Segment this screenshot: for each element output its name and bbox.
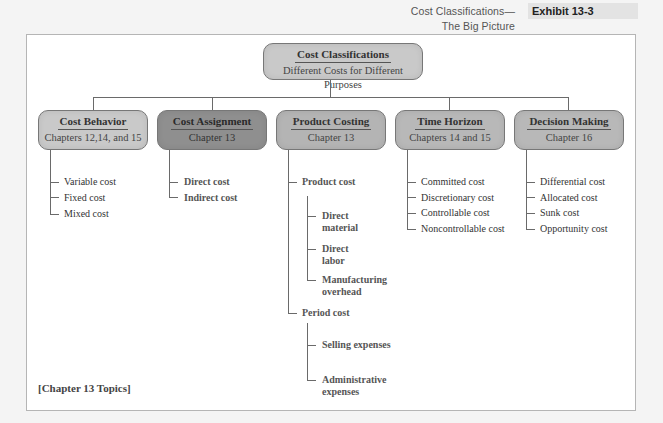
- list-item: Selling expenses: [322, 339, 391, 351]
- chapter-topics-note: [Chapter 13 Topics]: [38, 382, 131, 394]
- tick: [169, 197, 178, 198]
- branch-line: [169, 150, 170, 197]
- item-line: material: [322, 222, 358, 233]
- node-title: Time Horizon: [415, 115, 484, 130]
- root-subtitle: Different Costs for Different Purposes: [264, 64, 422, 92]
- item-line: labor: [322, 255, 345, 266]
- root-title: Cost Classifications: [295, 48, 391, 63]
- tick: [50, 182, 59, 183]
- list-item: Indirect cost: [184, 192, 237, 204]
- item-line: Administrative: [322, 374, 386, 385]
- node-time-horizon: Time Horizon Chapters 14 and 15: [395, 110, 505, 150]
- branch-line: [288, 150, 289, 313]
- tick: [288, 182, 297, 183]
- list-item: Variable cost: [64, 176, 116, 188]
- tick: [307, 249, 316, 250]
- item-line: Selling expenses: [322, 339, 391, 350]
- list-item: Differential cost: [540, 176, 605, 188]
- node-subtitle: Chapters 14 and 15: [396, 131, 504, 145]
- tick: [526, 182, 535, 183]
- root-connector-vertical: [330, 80, 331, 97]
- item-line: expenses: [322, 386, 359, 397]
- tick: [526, 229, 535, 230]
- tick: [407, 213, 416, 214]
- root-node: Cost Classifications Different Costs for…: [263, 43, 423, 80]
- node-title: Decision Making: [527, 115, 610, 130]
- sub-branch-line: [307, 196, 308, 280]
- node-decision-making: Decision Making Chapter 16: [514, 110, 624, 150]
- list-item: Sunk cost: [540, 207, 579, 219]
- tick: [50, 197, 59, 198]
- node-subtitle: Chapter 13: [158, 131, 266, 145]
- node-subtitle: Chapters 12,14, and 15: [39, 131, 147, 145]
- tick: [288, 313, 297, 314]
- node-product-costing: Product Costing Chapter 13: [276, 110, 386, 150]
- tick: [307, 345, 316, 346]
- tick: [169, 182, 178, 183]
- tick: [407, 197, 416, 198]
- list-item: Committed cost: [421, 176, 485, 188]
- list-item: Discretionary cost: [421, 192, 494, 204]
- tick: [407, 182, 416, 183]
- node-title: Cost Behavior: [58, 115, 129, 130]
- tick: [526, 213, 535, 214]
- list-item: Administrative expenses: [322, 374, 386, 398]
- list-item: Fixed cost: [64, 192, 105, 204]
- list-item: Mixed cost: [64, 208, 109, 220]
- tick: [50, 214, 59, 215]
- branch-line: [407, 150, 408, 230]
- tick: [407, 229, 416, 230]
- connector-cost-assignment: [212, 97, 213, 111]
- tick: [307, 380, 316, 381]
- branch-line: [526, 150, 527, 230]
- connector-time-horizon: [449, 97, 450, 111]
- list-item: Noncontrollable cost: [421, 223, 505, 235]
- horizontal-connector: [93, 97, 569, 98]
- node-subtitle: Chapter 13: [277, 131, 385, 145]
- group-label: Period cost: [302, 307, 350, 319]
- list-item: Opportunity cost: [540, 223, 608, 235]
- exhibit-title: Cost Classifications—The Big Picture: [395, 4, 515, 19]
- sub-branch-line: [307, 323, 308, 380]
- list-item: Controllable cost: [421, 207, 490, 219]
- exhibit-number: Exhibit 13-3: [532, 4, 594, 19]
- tick: [307, 280, 316, 281]
- list-item: Allocated cost: [540, 192, 597, 204]
- connector-decision-making: [568, 97, 569, 111]
- item-line: Direct: [322, 243, 348, 254]
- group-label: Product cost: [302, 176, 355, 188]
- tick: [307, 216, 316, 217]
- node-cost-behavior: Cost Behavior Chapters 12,14, and 15: [38, 110, 148, 150]
- list-item: Direct labor: [322, 243, 348, 267]
- node-title: Product Costing: [291, 115, 372, 130]
- list-item: Manufacturing overhead: [322, 274, 387, 298]
- connector-cost-behavior: [93, 97, 94, 111]
- node-subtitle: Chapter 16: [515, 131, 623, 145]
- node-title: Cost Assignment: [171, 115, 254, 130]
- list-item: Direct material: [322, 210, 358, 234]
- list-item: Direct cost: [184, 176, 230, 188]
- item-line: Direct: [322, 210, 348, 221]
- item-line: Manufacturing: [322, 274, 387, 285]
- tick: [526, 197, 535, 198]
- item-line: overhead: [322, 286, 361, 297]
- node-cost-assignment: Cost Assignment Chapter 13: [157, 110, 267, 150]
